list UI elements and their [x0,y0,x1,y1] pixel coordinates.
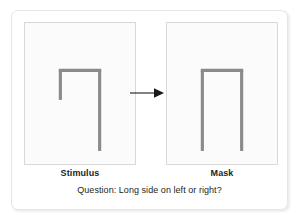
stimulus-panel [24,22,136,165]
figure-card: Stimulus Mask Question: Long side on lef… [11,10,288,210]
stimulus-panel-label: Stimulus [24,168,136,178]
question-caption: Question: Long side on left or right? [12,185,287,195]
mask-panel [166,22,278,165]
rightward-arrow-icon [129,85,165,101]
mask-shape-icon [167,23,277,164]
mask-panel-label: Mask [166,168,278,178]
panels-row: Stimulus Mask Question: Long side on lef… [12,11,287,209]
stimulus-shape-icon [25,23,135,164]
